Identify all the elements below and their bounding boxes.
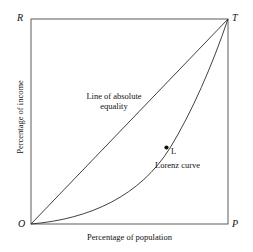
corner-label-p: P bbox=[232, 219, 238, 229]
plot-canvas bbox=[0, 0, 253, 252]
point-l-label: L bbox=[171, 146, 176, 156]
lorenz-curve-label: Lorenz curve bbox=[155, 160, 200, 170]
equality-annotation-line-2: equality bbox=[64, 101, 164, 111]
equality-line-annotation: Line of absolute equality bbox=[64, 91, 164, 111]
corner-label-t: T bbox=[232, 13, 238, 23]
corner-label-o: O bbox=[18, 219, 25, 229]
y-axis-title: Percentage of income bbox=[15, 47, 25, 187]
x-axis-title: Percentage of population bbox=[31, 232, 228, 242]
equality-annotation-line-1: Line of absolute bbox=[64, 91, 164, 101]
point-l-marker bbox=[164, 145, 168, 149]
lorenz-curve-figure: R T O P Line of absolute equality L Lore… bbox=[0, 0, 253, 252]
corner-label-r: R bbox=[17, 13, 23, 23]
line-of-absolute-equality bbox=[31, 19, 228, 224]
